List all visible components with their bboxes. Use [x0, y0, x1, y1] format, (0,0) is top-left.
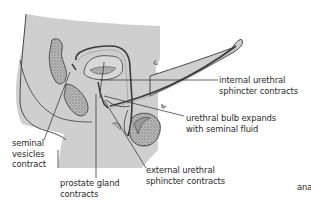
label-seminal-vesicles: seminalvesiclescontract [12, 138, 46, 170]
cutoff-text: ana [297, 182, 311, 193]
label-line: with seminal fluid [186, 124, 258, 134]
label-line: internal urethral [219, 75, 285, 85]
label-line: seminal [12, 138, 44, 148]
label-line: sphincter contracts [219, 86, 298, 96]
anatomy-diagram [0, 0, 311, 224]
label-line: vesicles [12, 149, 44, 159]
label-line: urethral bulb expands [186, 113, 276, 123]
label-external-urethral-sphincter: external urethralsphincter contracts [146, 165, 225, 186]
label-prostate-gland: prostate glandcontracts [60, 178, 120, 199]
label-line: prostate gland [60, 178, 120, 188]
label-line: external urethral [146, 165, 215, 175]
label-line: contract [12, 159, 46, 169]
label-line: contracts [60, 189, 98, 199]
label-internal-urethral-sphincter: internal urethralsphincter contracts [219, 75, 298, 96]
label-urethral-bulb: urethral bulb expandswith seminal fluid [186, 113, 276, 134]
label-line: sphincter contracts [146, 176, 225, 186]
